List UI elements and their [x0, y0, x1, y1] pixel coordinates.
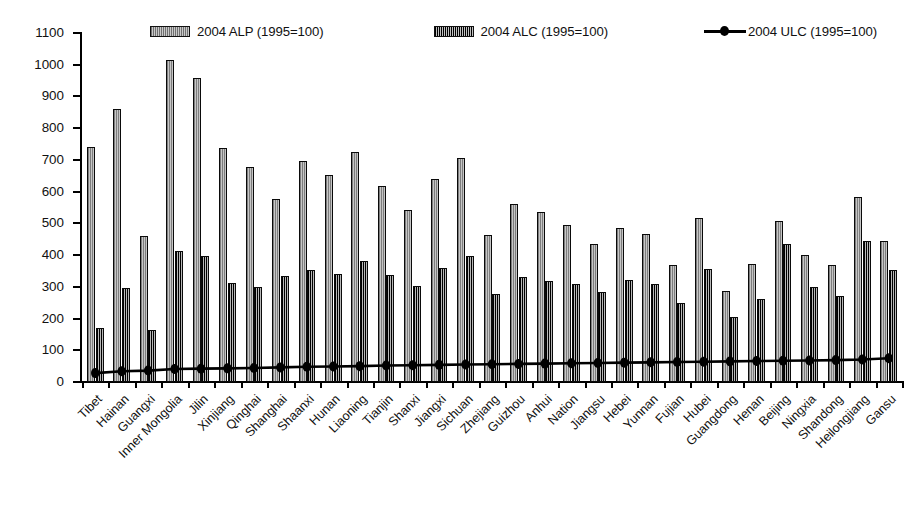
chart-container: 2004 ALP (1995=100)2004 ALC (1995=100)20…: [0, 0, 913, 513]
x-axis-labels: TibetHainanGuangxiInner MongoliaJilinXin…: [0, 0, 913, 513]
